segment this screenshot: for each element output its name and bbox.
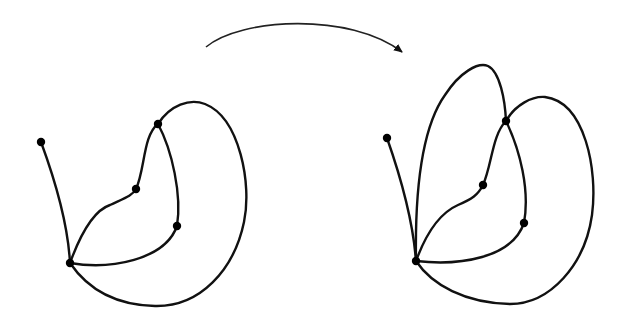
edge-leaf-to-bottom <box>41 142 70 263</box>
vertex-middle <box>479 181 487 189</box>
edge-middle-to-top <box>483 121 506 185</box>
vertex-bottom <box>412 257 420 265</box>
edge-bottom-to-middle <box>70 189 136 263</box>
edge-top-to-right <box>158 124 178 226</box>
vertex-isolated-leaf <box>37 138 45 146</box>
graph-after <box>383 65 594 304</box>
edge-middle-to-top <box>136 124 158 189</box>
edge-outer-loop-top-to-bottom <box>70 102 246 306</box>
vertex-top <box>154 120 162 128</box>
transformation-arrow <box>206 24 402 52</box>
graph-transformation-diagram <box>0 0 621 323</box>
edge-bottom-to-middle <box>416 185 483 261</box>
edge-leaf-to-bottom <box>387 138 416 261</box>
vertex-top <box>502 117 510 125</box>
graph-before <box>37 102 247 306</box>
vertex-middle <box>132 185 140 193</box>
vertex-right <box>520 219 528 227</box>
vertex-bottom <box>66 259 74 267</box>
edge-outer-loop-top-to-bottom <box>416 97 593 304</box>
vertex-isolated-leaf <box>383 134 391 142</box>
vertex-right <box>173 222 181 230</box>
edge-right-to-bottom <box>70 226 177 265</box>
edge-top-to-right <box>506 121 526 223</box>
